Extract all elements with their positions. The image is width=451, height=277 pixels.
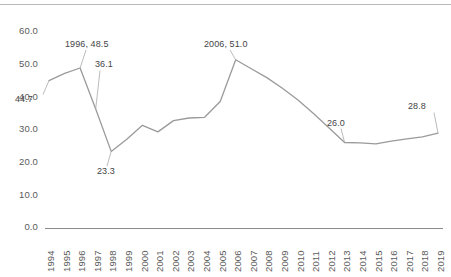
x-axis-tick-2001: 2001 <box>154 250 165 272</box>
x-axis-tick-2013: 2013 <box>341 250 352 272</box>
leader-line-1998 <box>107 151 111 166</box>
x-axis-tick-2011: 2011 <box>310 251 321 272</box>
data-label-2013: 26.0 <box>327 118 345 128</box>
x-axis-tick-2000: 2000 <box>139 250 150 272</box>
data-label-1996: 1996, 48.5 <box>65 39 109 49</box>
x-axis-tick-2012: 2012 <box>326 250 337 272</box>
x-axis-tick-1996: 1996 <box>76 250 87 272</box>
series-line <box>49 60 438 152</box>
x-axis-tick-2005: 2005 <box>217 250 228 272</box>
data-label-2019: 28.8 <box>408 101 426 111</box>
leader-line-1994 <box>43 81 49 95</box>
data-label-1994: 44.7 <box>15 94 33 104</box>
x-axis-tick-1999: 1999 <box>123 250 134 272</box>
x-axis-tick-1994: 1994 <box>45 250 56 272</box>
x-axis-tick-2017: 2017 <box>404 250 415 272</box>
data-label-1998: 23.3 <box>97 166 115 176</box>
line-chart: 60.0 50.0 40.0 30.0 20.0 10.0 0.0 44.7 1… <box>0 0 451 277</box>
x-axis-tick-2007: 2007 <box>248 250 259 272</box>
x-axis-tick-1998: 1998 <box>107 250 118 272</box>
leader-line-1996 <box>80 50 86 68</box>
data-label-1997: 36.1 <box>95 59 113 69</box>
x-axis-tick-2014: 2014 <box>357 250 368 272</box>
x-axis-tick-2015: 2015 <box>373 250 384 272</box>
x-axis-tick-2003: 2003 <box>185 250 196 272</box>
x-axis-tick-2009: 2009 <box>279 250 290 272</box>
x-axis-tick-2019: 2019 <box>435 250 446 272</box>
x-axis-tick-2018: 2018 <box>419 250 430 272</box>
x-axis-tick-1997: 1997 <box>92 250 103 272</box>
data-label-2006: 2006, 51.0 <box>204 39 248 49</box>
x-axis-tick-2006: 2006 <box>232 250 243 272</box>
x-axis-tick-2016: 2016 <box>388 250 399 272</box>
x-axis-tick-2002: 2002 <box>170 250 181 272</box>
x-axis-tick-2008: 2008 <box>263 250 274 272</box>
leader-line-2019 <box>434 113 438 134</box>
x-axis-tick-1995: 1995 <box>61 250 72 272</box>
leader-line-1997 <box>96 71 100 110</box>
x-axis-tick-2004: 2004 <box>201 250 212 272</box>
x-axis-tick-2010: 2010 <box>295 250 306 272</box>
leader-line-2006 <box>230 50 236 60</box>
